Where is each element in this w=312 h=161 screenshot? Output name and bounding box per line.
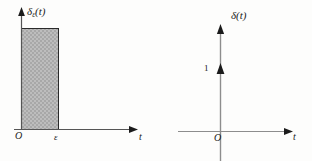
x-tick-label-epsilon: ε bbox=[54, 133, 58, 142]
origin-label: O bbox=[15, 131, 22, 141]
pulse-rectangle bbox=[22, 29, 59, 130]
dirac-delta-plot: δ(t) 1 O t bbox=[156, 0, 312, 161]
x-axis-label: t bbox=[293, 132, 296, 142]
dirac-delta-svg bbox=[156, 0, 312, 161]
x-axis-arrowhead-icon bbox=[129, 126, 138, 133]
origin-label: O bbox=[214, 133, 221, 143]
y-axis-arrowhead-icon bbox=[18, 7, 25, 16]
rectangular-pulse-plot: δε(t) O ε t bbox=[0, 0, 156, 161]
y-axis-label: δε(t) bbox=[27, 6, 45, 18]
y-axis-label: δ(t) bbox=[231, 10, 247, 21]
y-axis-arrowhead-icon bbox=[217, 24, 224, 34]
figure-canvas: δε(t) O ε t δ(t) 1 O t bbox=[0, 0, 312, 161]
x-axis-label: t bbox=[139, 132, 142, 142]
rectangular-pulse-svg bbox=[0, 0, 156, 161]
x-axis-arrowhead-icon bbox=[284, 128, 293, 135]
impulse-weight-label: 1 bbox=[204, 64, 209, 73]
impulse-arrowhead-icon bbox=[217, 63, 225, 74]
